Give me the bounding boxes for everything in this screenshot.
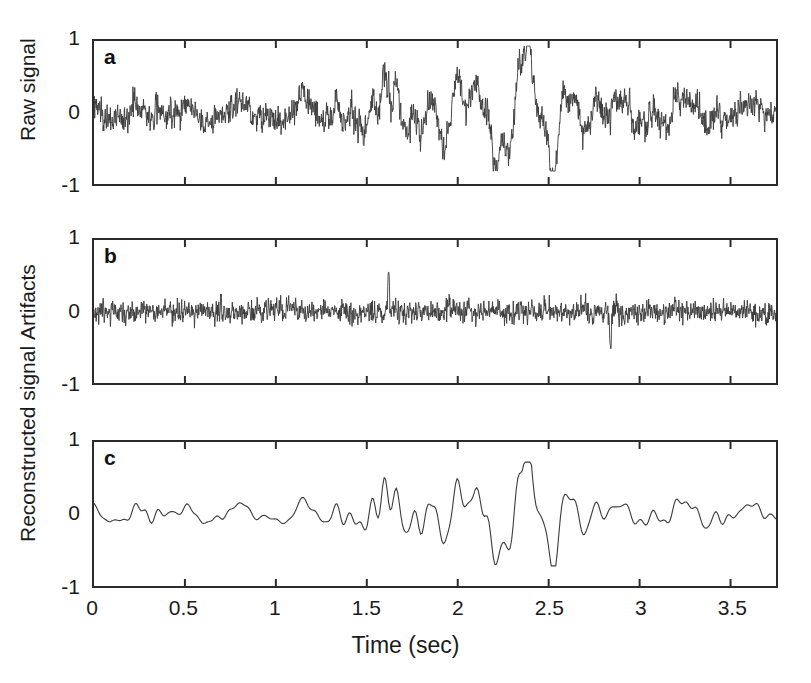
panel-a-ytick-mid: 0: [40, 101, 80, 122]
x-tick-label-6: 3: [611, 597, 671, 618]
panel-b-ytick-top: 1: [40, 226, 80, 247]
figure-eeg-artifact-removal: Raw signal 1 0 -1 a Artifacts 1 0 -1 b R…: [0, 0, 811, 683]
panel-c-ytick-mid: 0: [40, 502, 80, 523]
panel-c-ytick-bottom: -1: [40, 576, 80, 597]
panel-a-ylabel: Raw signal: [14, 85, 42, 141]
panel-b-trace: [94, 240, 776, 383]
x-tick-label-0: 0: [62, 597, 122, 618]
panel-b-plot-area: b: [92, 238, 778, 385]
x-axis-title: Time (sec): [0, 632, 811, 659]
x-tick-label-7: 3.5: [702, 597, 762, 618]
x-tick-label-2: 1: [245, 597, 305, 618]
panel-b-ylabel: Artifacts: [14, 284, 42, 340]
x-tick-label-5: 2.5: [519, 597, 579, 618]
panel-a-trace: [94, 41, 776, 184]
panel-a-plot-area: a: [92, 39, 778, 186]
x-tick-label-4: 2: [428, 597, 488, 618]
panel-b-ytick-mid: 0: [40, 300, 80, 321]
panel-c-ylabel: Reconstructed signal: [14, 486, 42, 542]
panel-a-ytick-bottom: -1: [40, 174, 80, 195]
panel-c-ytick-top: 1: [40, 428, 80, 449]
x-tick-label-1: 0.5: [153, 597, 213, 618]
panel-a-ytick-top: 1: [40, 27, 80, 48]
panel-c-trace: [94, 442, 776, 586]
panel-b-ytick-bottom: -1: [40, 373, 80, 394]
panel-c-plot-area: c: [92, 440, 778, 588]
x-tick-label-3: 1.5: [336, 597, 396, 618]
